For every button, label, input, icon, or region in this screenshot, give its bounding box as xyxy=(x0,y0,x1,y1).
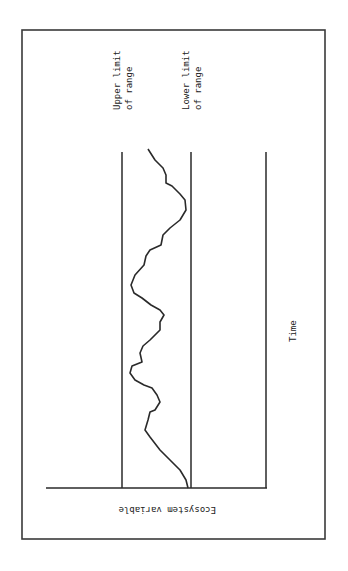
y-axis-label: Ecosystem variable xyxy=(118,505,216,515)
upper-limit-label-line1: Upper limit xyxy=(112,50,122,110)
time-label: Time xyxy=(288,320,298,342)
x-axis-label: Time xyxy=(288,320,298,342)
lower-limit-label-line1: Lower limit xyxy=(181,50,191,110)
upper-limit-label-line2: of range xyxy=(124,67,134,110)
ecosystem-variable-series xyxy=(130,149,188,488)
lower-limit-label: Lower limit of range xyxy=(181,50,203,110)
chart-figure: Upper limit of range Lower limit of rang… xyxy=(0,0,348,571)
ecosystem-variable-label: Ecosystem variable xyxy=(118,505,216,515)
lower-limit-label-line2: of range xyxy=(193,67,203,110)
upper-limit-label: Upper limit of range xyxy=(112,50,134,110)
